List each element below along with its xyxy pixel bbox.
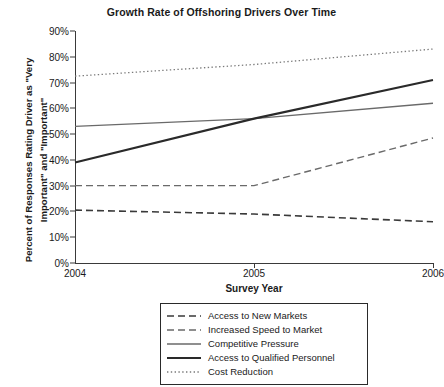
legend-label: Access to Qualified Personnel [208, 351, 335, 365]
y-tick-label: 60% [29, 103, 69, 114]
x-axis-title: Survey Year [75, 283, 433, 294]
series-lines [75, 31, 433, 263]
y-tick-label: 10% [29, 232, 69, 243]
legend-item[interactable]: Competitive Pressure [167, 337, 359, 351]
series-line-1 [75, 138, 433, 186]
y-tick-label: 70% [29, 77, 69, 88]
legend-label: Increased Speed to Market [208, 323, 322, 337]
series-line-2 [75, 103, 433, 126]
y-tick-label: 20% [29, 206, 69, 217]
chart-title: Growth Rate of Offshoring Drivers Over T… [0, 6, 443, 18]
legend-swatch-3 [167, 353, 201, 363]
legend-item[interactable]: Increased Speed to Market [167, 323, 359, 337]
y-tick-label: 40% [29, 154, 69, 165]
legend-item[interactable]: Access to Qualified Personnel [167, 351, 359, 365]
legend-swatch-1 [167, 325, 201, 335]
legend-item[interactable]: Access to New Markets [167, 309, 359, 323]
legend-label: Competitive Pressure [208, 337, 299, 351]
x-tick-label: 2006 [422, 268, 444, 279]
plot-area: 0%10%20%30%40%50%60%70%80%90% 2004200520… [75, 31, 433, 263]
series-line-3 [75, 80, 433, 162]
legend-swatch-0 [167, 311, 201, 321]
legend-swatch-2 [167, 339, 201, 349]
y-tick-label: 0% [29, 258, 69, 269]
x-tick-label: 2004 [64, 268, 86, 279]
series-line-0 [75, 210, 433, 222]
y-tick-label: 90% [29, 26, 69, 37]
chart-legend: Access to New MarketsIncreased Speed to … [160, 303, 368, 385]
legend-item[interactable]: Cost Reduction [167, 365, 359, 379]
legend-swatch-4 [167, 367, 201, 377]
legend-label: Access to New Markets [208, 309, 307, 323]
series-line-4 [75, 49, 433, 76]
y-tick-label: 80% [29, 51, 69, 62]
legend-label: Cost Reduction [208, 365, 273, 379]
y-tick-label: 30% [29, 180, 69, 191]
x-tick-label: 2005 [243, 268, 265, 279]
y-tick-label: 50% [29, 129, 69, 140]
